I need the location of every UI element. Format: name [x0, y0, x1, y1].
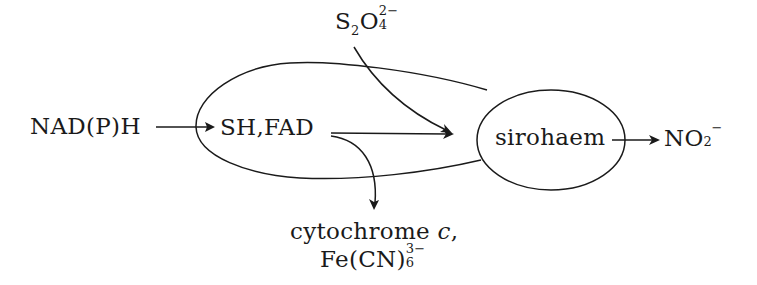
dithionite-sub2: 4 — [379, 18, 388, 31]
ferricyanide-base: Fe(CN) — [320, 246, 406, 272]
cytochrome-suffix: , — [451, 218, 459, 244]
cytochrome-c-label: cytochrome c, — [290, 220, 458, 243]
nitrite-label: NO−2 — [664, 127, 724, 153]
dithionite-sup: 2− — [379, 4, 399, 17]
ferricyanide-sup: 3− — [406, 242, 426, 255]
arrow-fad-to-sirohaem — [331, 133, 447, 134]
ferricyanide-label: Fe(CN)3−6 — [320, 248, 426, 274]
nitrite-reductase-pathway-diagram: NAD(P)H SH,FAD S2O2−4 sirohaem NO−2 cyto… — [0, 0, 757, 285]
sh-fad-label: SH,FAD — [220, 116, 314, 139]
dithionite-base: S — [335, 8, 351, 34]
dithionite-charge: 2−4 — [379, 10, 399, 36]
arrowhead-icon — [369, 199, 379, 210]
sirohaem-label: sirohaem — [495, 126, 605, 149]
arrow-fad-to-acceptors — [331, 136, 375, 203]
nitrite-sub: 2 — [704, 135, 713, 148]
dithionite-mid: O — [360, 8, 379, 34]
nitrite-charge: −2 — [704, 127, 724, 153]
nadph-label: NAD(P)H — [30, 115, 141, 138]
dithionite-label: S2O2−4 — [335, 10, 399, 36]
dithionite-sub1: 2 — [351, 23, 360, 38]
nitrite-sup: − — [712, 121, 723, 134]
cytochrome-c-letter: c — [438, 218, 451, 244]
ferricyanide-charge: 3−6 — [406, 248, 426, 274]
ferricyanide-sub: 6 — [406, 256, 415, 269]
arrow-dithionite-to-sirohaem — [354, 47, 446, 130]
nitrite-base: NO — [664, 125, 704, 151]
